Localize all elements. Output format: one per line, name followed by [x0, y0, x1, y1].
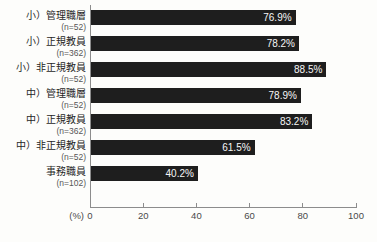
bar: 78.2% [91, 36, 299, 51]
x-axis-tick [249, 203, 250, 207]
bar: 78.9% [91, 88, 301, 103]
x-axis-tick-label: 100 [339, 210, 373, 221]
category-n-label: (n=52) [0, 22, 86, 32]
x-axis-tick-label: 60 [233, 210, 267, 221]
value-label: 78.9% [269, 88, 297, 103]
bar: 83.2% [91, 114, 312, 129]
value-label: 40.2% [166, 166, 194, 181]
category-label-text: 中）非正規教員 [0, 139, 86, 152]
category-label-text: 中）正規教員 [0, 113, 86, 126]
category-n-label: (n=362) [0, 126, 86, 136]
x-axis-tick-label: 80 [286, 210, 320, 221]
value-label: 61.5% [222, 140, 250, 155]
x-axis-tick-label: 20 [126, 210, 160, 221]
bar: 40.2% [91, 166, 198, 181]
category-n-label: (n=52) [0, 100, 86, 110]
category-label-text: 事務職員 [0, 165, 86, 178]
category-label-text: 中）管理職層 [0, 87, 86, 100]
category-label-text: 小）非正規教員 [0, 61, 86, 74]
category-label: 事務職員(n=102) [0, 165, 86, 188]
bar: 88.5% [91, 62, 326, 77]
bar: 61.5% [91, 140, 255, 155]
category-label: 小）正規教員(n=362) [0, 35, 86, 58]
category-label: 小）管理職層(n=52) [0, 9, 86, 32]
category-label-text: 小）管理職層 [0, 9, 86, 22]
category-n-label: (n=362) [0, 48, 86, 58]
value-label: 83.2% [280, 114, 308, 129]
category-label: 中）管理職層(n=52) [0, 87, 86, 110]
bar-chart: (%) 小）管理職層(n=52)76.9%小）正規教員(n=362)78.2%小… [0, 0, 377, 242]
category-n-label: (n=102) [0, 178, 86, 188]
category-n-label: (n=52) [0, 74, 86, 84]
x-axis-tick-label: 0 [73, 210, 107, 221]
value-label: 88.5% [294, 62, 322, 77]
category-n-label: (n=52) [0, 152, 86, 162]
x-axis-tick-label: 40 [179, 210, 213, 221]
x-axis-tick [196, 203, 197, 207]
category-label: 中）正規教員(n=362) [0, 113, 86, 136]
category-label: 中）非正規教員(n=52) [0, 139, 86, 162]
value-label: 76.9% [263, 10, 291, 25]
value-label: 78.2% [267, 36, 295, 51]
x-axis-tick [143, 203, 144, 207]
category-label-text: 小）正規教員 [0, 35, 86, 48]
x-axis-tick [356, 203, 357, 207]
category-label: 小）非正規教員(n=52) [0, 61, 86, 84]
bar: 76.9% [91, 10, 296, 25]
x-axis-tick [302, 203, 303, 207]
